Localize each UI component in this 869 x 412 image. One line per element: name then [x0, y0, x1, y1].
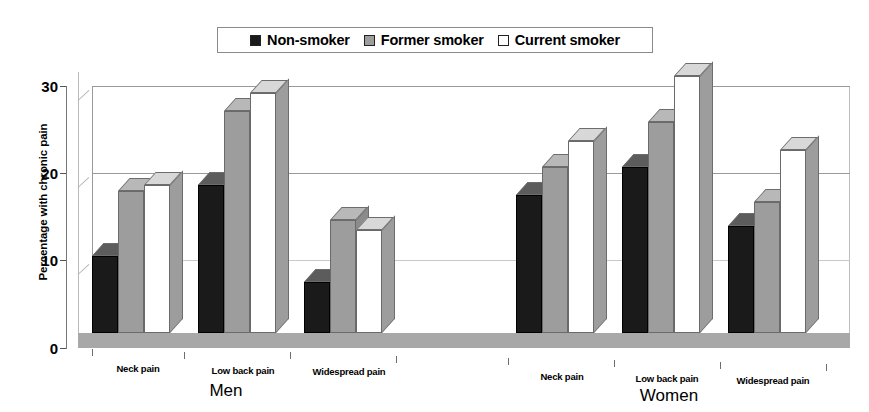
bar-front-face [516, 195, 542, 333]
bar-front-face [198, 185, 224, 333]
bar-men-widespread-current-smoker [356, 230, 382, 333]
bar-front-face [648, 122, 674, 333]
bar-women-neck-former-smoker [542, 167, 568, 333]
legend-label-former-smoker: Former smoker [381, 32, 484, 48]
x-tick-mark-2 [184, 352, 185, 359]
x-tick-mark-1 [92, 349, 93, 356]
y-axis-ticks: 30 20 10 0 [8, 0, 58, 412]
bar-women-widespread-non-smoker [728, 226, 754, 333]
plot-area [78, 86, 850, 348]
legend-item-current-smoker: Current smoker [498, 32, 620, 48]
x-tick-mark-6 [614, 360, 615, 367]
bar-front-face [754, 202, 780, 333]
bar-men-lowback-current-smoker [250, 93, 276, 333]
legend-label-non-smoker: Non-smoker [267, 32, 350, 48]
bar-women-neck-current-smoker [568, 141, 594, 333]
bar-men-neck-current-smoker [144, 185, 170, 333]
bar-front-face [92, 256, 118, 333]
x-tick-mark-5 [508, 358, 509, 365]
x-label-men-neck-pain: Neck pain [116, 363, 159, 374]
bar-front-face [304, 282, 330, 333]
group-label-men: Men [209, 381, 242, 401]
y-tick-label-10: 10 [14, 252, 58, 269]
bar-front-face [224, 111, 250, 333]
bar-men-widespread-former-smoker [330, 220, 356, 333]
legend-swatch-white-icon [498, 35, 509, 46]
legend-swatch-gray-icon [364, 35, 375, 46]
bar-women-neck-non-smoker [516, 195, 542, 333]
bar-men-lowback-non-smoker [198, 185, 224, 333]
legend-item-former-smoker: Former smoker [364, 32, 484, 48]
bar-men-lowback-former-smoker [224, 111, 250, 333]
x-label-men-widespread-pain: Widespread pain [313, 366, 386, 377]
bar-front-face [542, 167, 568, 333]
bar-front-face [780, 150, 806, 333]
bar-front-face [118, 191, 144, 333]
bar-women-widespread-current-smoker [780, 150, 806, 333]
bar-side-face [806, 136, 819, 333]
bar-men-neck-non-smoker [92, 256, 118, 333]
x-label-women-widespread-pain: Widespread pain [737, 375, 810, 386]
bar-front-face [674, 76, 700, 333]
chart-legend: Non-smoker Former smoker Current smoker [217, 27, 653, 53]
bar-series-group [78, 86, 850, 348]
legend-item-non-smoker: Non-smoker [250, 32, 350, 48]
legend-label-current-smoker: Current smoker [515, 32, 620, 48]
bar-men-neck-former-smoker [118, 191, 144, 333]
x-label-women-neck-pain: Neck pain [540, 371, 583, 382]
bar-women-lowback-non-smoker [622, 167, 648, 333]
bar-women-lowback-current-smoker [674, 76, 700, 333]
bar-front-face [728, 226, 754, 333]
bar-side-face [170, 171, 183, 333]
x-tick-mark-3 [290, 352, 291, 359]
legend-swatch-black-icon [250, 35, 261, 46]
x-tick-mark-7 [720, 362, 721, 369]
bar-front-face [622, 167, 648, 333]
y-axis-line [66, 86, 67, 349]
y-tick-label-20: 20 [14, 165, 58, 182]
x-label-men-low-back-pain: Low back pain [212, 365, 275, 376]
bar-front-face [356, 230, 382, 333]
chart-container: Non-smoker Former smoker Current smoker … [0, 0, 869, 412]
bar-men-widespread-non-smoker [304, 282, 330, 333]
bar-side-face [594, 127, 607, 333]
bar-side-face [700, 62, 713, 333]
bar-front-face [144, 185, 170, 333]
x-tick-mark-8 [826, 364, 827, 371]
bar-women-lowback-former-smoker [648, 122, 674, 333]
y-tick-label-0: 0 [14, 340, 58, 357]
group-label-women: Women [640, 386, 698, 406]
x-tick-mark-4 [396, 356, 397, 363]
bar-side-face [276, 79, 289, 333]
x-label-women-low-back-pain: Low back pain [636, 373, 699, 384]
bar-women-widespread-former-smoker [754, 202, 780, 333]
bar-front-face [250, 93, 276, 333]
y-tick-label-30: 30 [14, 78, 58, 95]
bar-front-face [330, 220, 356, 333]
bar-side-face [382, 216, 395, 333]
bar-front-face [568, 141, 594, 333]
